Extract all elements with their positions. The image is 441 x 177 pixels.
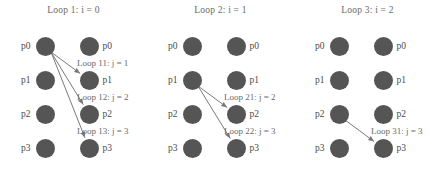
process-node-left bbox=[183, 37, 202, 56]
loop-panel: Loop 2: i = 1p0p1p2p3p0p1p2p3Loop 21: j … bbox=[147, 0, 294, 177]
process-node-right bbox=[80, 71, 99, 90]
process-node-left bbox=[183, 105, 202, 124]
process-label-left: p3 bbox=[303, 143, 325, 153]
process-label-left: p2 bbox=[303, 109, 325, 119]
process-node-left bbox=[330, 37, 349, 56]
process-node-left bbox=[36, 105, 55, 124]
process-node-right bbox=[374, 71, 393, 90]
transfer-arrow bbox=[198, 86, 227, 107]
process-label-left: p1 bbox=[9, 75, 31, 85]
process-label-right: p1 bbox=[103, 75, 125, 85]
loop-annotation: Loop 11: j = 1 bbox=[77, 58, 128, 68]
process-label-right: p2 bbox=[250, 109, 272, 119]
process-label-left: p0 bbox=[156, 41, 178, 51]
transfer-arrow bbox=[51, 52, 80, 73]
panel-title: Loop 3: i = 2 bbox=[294, 5, 441, 15]
process-node-right bbox=[80, 139, 99, 158]
process-label-left: p2 bbox=[9, 109, 31, 119]
process-node-right bbox=[374, 105, 393, 124]
process-node-left bbox=[36, 139, 55, 158]
loop-annotation: Loop 31: j = 3 bbox=[371, 126, 423, 136]
process-label-right: p0 bbox=[397, 41, 419, 51]
process-node-right bbox=[227, 105, 246, 124]
process-label-left: p0 bbox=[9, 41, 31, 51]
figure-canvas: Loop 1: i = 0p0p1p2p3p0p1p2p3Loop 11: j … bbox=[0, 0, 441, 177]
process-node-right bbox=[374, 37, 393, 56]
process-label-right: p2 bbox=[397, 109, 419, 119]
process-node-right bbox=[227, 37, 246, 56]
transfer-arrow bbox=[345, 120, 374, 141]
process-node-left bbox=[330, 71, 349, 90]
process-label-left: p1 bbox=[156, 75, 178, 85]
loop-panel: Loop 1: i = 0p0p1p2p3p0p1p2p3Loop 11: j … bbox=[0, 0, 147, 177]
panel-title: Loop 1: i = 0 bbox=[0, 5, 147, 15]
process-node-left bbox=[36, 37, 55, 56]
process-node-right bbox=[227, 71, 246, 90]
process-label-right: p1 bbox=[250, 75, 272, 85]
process-label-left: p1 bbox=[303, 75, 325, 85]
process-label-left: p2 bbox=[156, 109, 178, 119]
loop-annotation: Loop 13: j = 3 bbox=[77, 126, 129, 136]
process-node-left bbox=[330, 105, 349, 124]
loop-annotation: Loop 22: j = 3 bbox=[224, 126, 276, 136]
process-node-right bbox=[80, 105, 99, 124]
process-node-left bbox=[183, 71, 202, 90]
process-label-right: p2 bbox=[103, 109, 125, 119]
process-node-left bbox=[330, 139, 349, 158]
loop-panel: Loop 3: i = 2p0p1p2p3p0p1p2p3Loop 31: j … bbox=[294, 0, 441, 177]
process-label-right: p0 bbox=[250, 41, 272, 51]
loop-annotation: Loop 21: j = 2 bbox=[224, 92, 276, 102]
process-label-left: p3 bbox=[156, 143, 178, 153]
process-node-right bbox=[227, 139, 246, 158]
process-label-left: p0 bbox=[303, 41, 325, 51]
process-node-right bbox=[374, 139, 393, 158]
process-label-left: p3 bbox=[9, 143, 31, 153]
process-label-right: p3 bbox=[397, 143, 419, 153]
loop-annotation: Loop 12: j = 2 bbox=[77, 92, 129, 102]
process-label-right: p1 bbox=[397, 75, 419, 85]
process-label-right: p0 bbox=[103, 41, 125, 51]
process-label-right: p3 bbox=[250, 143, 272, 153]
process-label-right: p3 bbox=[103, 143, 125, 153]
panel-title: Loop 2: i = 1 bbox=[147, 5, 294, 15]
process-node-right bbox=[80, 37, 99, 56]
process-node-left bbox=[36, 71, 55, 90]
process-node-left bbox=[183, 139, 202, 158]
